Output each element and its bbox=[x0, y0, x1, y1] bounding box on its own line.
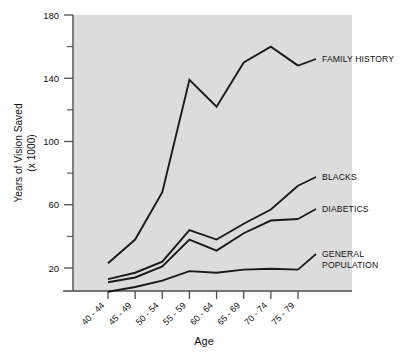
y-tick-label: 180 bbox=[43, 10, 59, 21]
y-tick-label: 140 bbox=[43, 73, 59, 84]
y-axis-title-line1: Years of Vision Saved bbox=[13, 103, 24, 202]
series-label: GENERAL bbox=[322, 249, 364, 259]
y-tick-label: 60 bbox=[48, 199, 59, 210]
line-chart: 2060100140180 40 - 4445 - 4950 - 5455 - … bbox=[0, 0, 409, 354]
x-axis-title: Age bbox=[194, 335, 214, 347]
series-label: BLACKS bbox=[322, 172, 357, 182]
series-label: DIABETICS bbox=[322, 204, 369, 214]
chart-container: 2060100140180 40 - 4445 - 4950 - 5455 - … bbox=[0, 0, 409, 354]
y-tick-label: 20 bbox=[48, 263, 59, 274]
series-label: FAMILY HISTORY bbox=[322, 54, 394, 64]
y-tick-label: 100 bbox=[43, 136, 59, 147]
series-label-line2: POPULATION bbox=[322, 260, 378, 270]
y-axis-title-line2: (x 1000) bbox=[26, 134, 37, 171]
